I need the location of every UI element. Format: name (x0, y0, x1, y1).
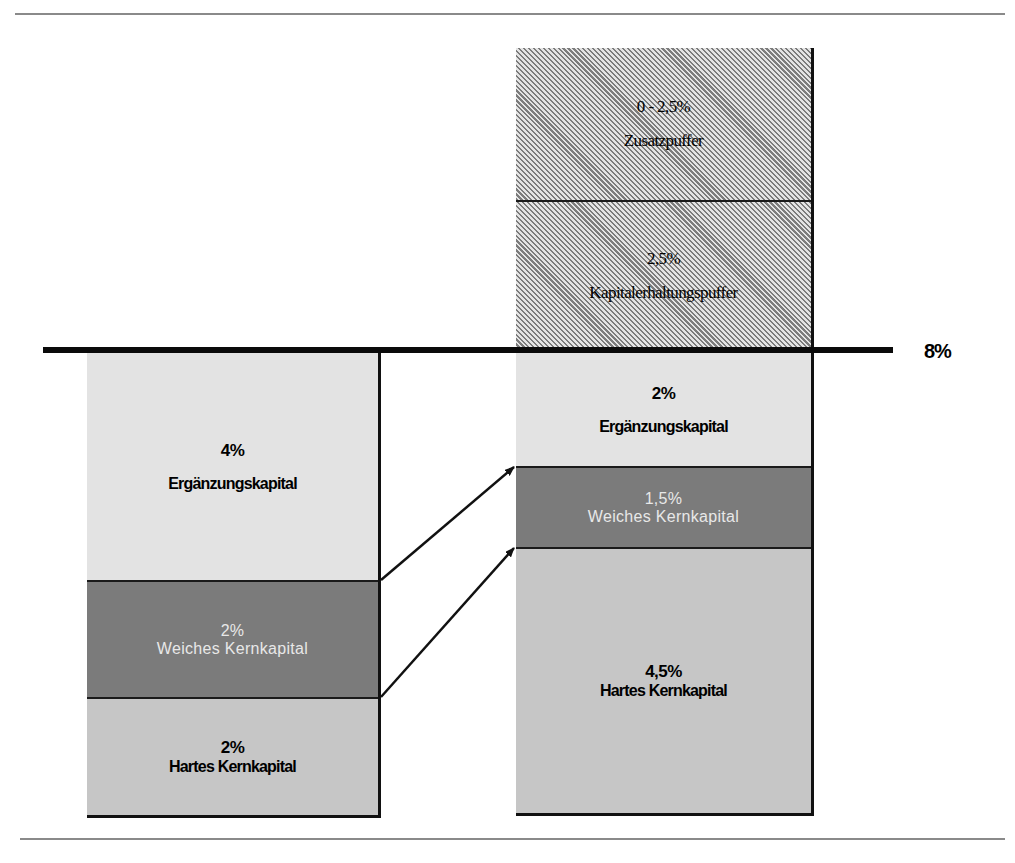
bottom-rule (20, 838, 1005, 840)
arrow-hartes-icon (381, 548, 514, 697)
arrow-weiches-icon (381, 467, 514, 580)
transition-arrows (0, 0, 1015, 863)
